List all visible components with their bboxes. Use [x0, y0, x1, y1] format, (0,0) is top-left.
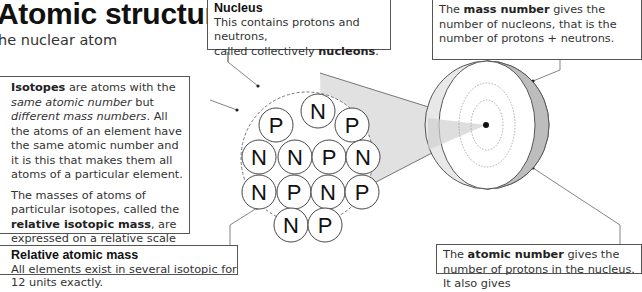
nucleon-proton: P [312, 140, 346, 174]
mass-number-box: The mass number gives the number of nucl… [432, 0, 642, 60]
nucleon-proton: P [335, 108, 369, 142]
nucleon-proton: P [345, 175, 379, 209]
nucleon-proton: P [277, 175, 311, 209]
atomic-number-box: The atomic number gives the number of pr… [436, 244, 642, 274]
svg-text:P: P [269, 113, 284, 138]
svg-text:P: P [322, 145, 337, 170]
nucleus-info-box: Nucleus This contains protons and neutro… [207, 0, 391, 50]
nucleon-neutron: N [242, 175, 276, 209]
nucleon-neutron: N [278, 140, 312, 174]
svg-text:N: N [287, 145, 303, 170]
nucleon-proton: P [308, 208, 342, 242]
svg-text:P: P [287, 180, 302, 205]
nucleus-heading: Nucleus [214, 1, 384, 16]
svg-text:N: N [320, 180, 336, 205]
svg-text:N: N [283, 213, 299, 238]
isotopes-box: Isotopes are atoms with the same atomic … [0, 76, 190, 234]
svg-text:P: P [355, 180, 370, 205]
nucleon-proton: P [259, 108, 293, 142]
svg-text:N: N [251, 180, 267, 205]
nucleon-neutron: N [311, 175, 345, 209]
atom-sphere-icon [425, 61, 549, 189]
svg-text:N: N [310, 99, 326, 124]
nucleus-text: This contains protons and neutrons,calle… [214, 16, 384, 60]
nucleon-neutron: N [346, 140, 380, 174]
relative-atomic-mass-box: Relative atomic mass All elements exist … [0, 245, 238, 275]
nucleon-neutron: N [242, 140, 276, 174]
svg-text:N: N [251, 145, 267, 170]
svg-text:P: P [318, 213, 333, 238]
svg-text:N: N [355, 145, 371, 170]
nucleon-neutron: N [274, 208, 308, 242]
svg-text:P: P [345, 113, 360, 138]
nucleon-neutron: N [301, 94, 335, 128]
